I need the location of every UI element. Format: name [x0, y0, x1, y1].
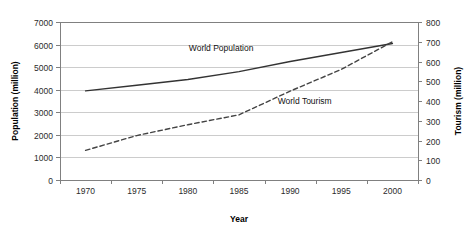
- y-axis-right-tick-label: 500: [426, 77, 440, 87]
- x-axis-title: Year: [230, 214, 249, 224]
- x-axis-tick-label: 1970: [76, 186, 95, 196]
- y-axis-right-title: Tourism (million): [453, 67, 463, 135]
- x-axis-tick-label: 1990: [281, 186, 300, 196]
- x-axis-tick-label: 1975: [127, 186, 146, 196]
- y-axis-right-tick-label: 400: [426, 97, 440, 107]
- y-axis-right-tick-label: 700: [426, 38, 440, 48]
- series-label-world-population: World Population: [189, 43, 254, 53]
- y-axis-left-tick-label: 2000: [34, 131, 53, 141]
- y-axis-right-tick-label: 200: [426, 137, 440, 147]
- y-axis-right-tick-label: 0: [426, 176, 431, 186]
- y-axis-left-title: Population (million): [10, 61, 20, 140]
- y-axis-right-tick-label: 100: [426, 156, 440, 166]
- x-axis-tick-label: 1995: [332, 186, 351, 196]
- y-axis-left-tick-label: 4000: [34, 86, 53, 96]
- x-axis-tick-label: 1985: [230, 186, 249, 196]
- y-axis-right-ticks: 0100200300400500600700800: [418, 18, 440, 186]
- chart-figure: 01000200030004000500060007000 0100200300…: [0, 0, 474, 233]
- y-axis-right-tick-label: 300: [426, 117, 440, 127]
- y-axis-right-tick-label: 600: [426, 58, 440, 68]
- y-axis-right-tick-label: 800: [426, 18, 440, 28]
- y-axis-left-tick-label: 0: [48, 176, 53, 186]
- y-axis-left-tick-label: 7000: [34, 18, 53, 28]
- y-axis-left-tick-label: 5000: [34, 63, 53, 73]
- x-axis-tick-label: 1980: [178, 186, 197, 196]
- line-chart: 01000200030004000500060007000 0100200300…: [0, 0, 474, 233]
- y-axis-left-tick-label: 1000: [34, 153, 53, 163]
- x-axis-tick-label: 2000: [383, 186, 402, 196]
- series-label-world-tourism: World Tourism: [278, 96, 332, 106]
- y-axis-left-tick-label: 3000: [34, 108, 53, 118]
- y-axis-left-tick-label: 6000: [34, 41, 53, 51]
